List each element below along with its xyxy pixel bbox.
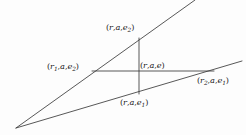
point-label-right: (r2,a,e1): [197, 76, 229, 84]
label-subscript: 1: [222, 80, 226, 86]
point-label-top: (r,a,e2): [106, 23, 134, 31]
label-close-paren: ): [226, 75, 229, 85]
geometry-figure: (r,a,e2) (r1,a,e2) (r,a,e) (r2,a,e1) (r,…: [0, 0, 246, 135]
upper-ray-line: [16, 0, 195, 128]
figure-canvas: [0, 0, 246, 135]
label-var-e: e: [137, 97, 142, 107]
point-label-bottom: (r,a,e1): [120, 98, 148, 106]
label-var-e: e: [123, 22, 128, 32]
label-close-paren: ): [162, 60, 165, 70]
label-subscript: 2: [128, 27, 132, 33]
label-subscript: 1: [54, 66, 58, 72]
label-close-paren: ): [131, 22, 134, 32]
label-close-paren: ): [145, 97, 148, 107]
label-subscript: 2: [72, 66, 76, 72]
label-subscript: 1: [142, 102, 146, 108]
label-subscript: 2: [204, 80, 208, 86]
point-label-center: (r,a,e): [140, 61, 165, 69]
point-label-left: (r1,a,e2): [47, 62, 79, 70]
label-close-paren: ): [76, 61, 79, 71]
